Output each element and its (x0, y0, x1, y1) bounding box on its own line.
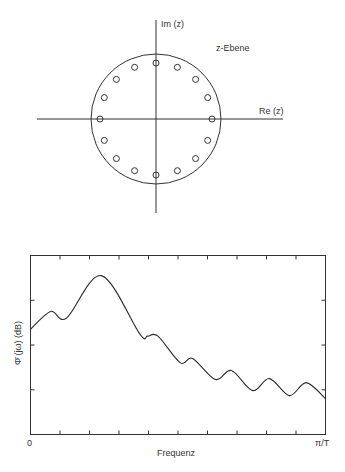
plot-frame (31, 256, 326, 435)
y-axis-ticks (31, 300, 326, 390)
spectrum-chart (31, 256, 326, 435)
zero-marker (174, 168, 180, 174)
zero-marker (205, 137, 211, 143)
z-plane-title: z-Ebene (216, 43, 250, 53)
zero-marker (101, 95, 107, 101)
y-axis-label: Φ̄ (jω) (dB) (13, 308, 23, 378)
zero-marker (113, 156, 119, 162)
im-axis-label: Im (z) (161, 19, 184, 29)
re-axis-label: Re (z) (259, 106, 284, 116)
zero-marker (101, 137, 107, 143)
zero-marker (132, 168, 138, 174)
zero-marker (174, 64, 180, 70)
figure-canvas (0, 0, 345, 472)
x-axis-ticks (60, 256, 296, 435)
zero-marker (205, 95, 211, 101)
zero-marker (132, 64, 138, 70)
spectrum-curve (31, 275, 326, 398)
zero-marker (193, 156, 199, 162)
zero-marker (193, 76, 199, 82)
x-tick-label-zero: 0 (27, 438, 32, 448)
x-axis-label: Frequenz (157, 448, 195, 458)
x-tick-label-pi-over-t: π/T (315, 438, 329, 448)
zero-marker (113, 76, 119, 82)
